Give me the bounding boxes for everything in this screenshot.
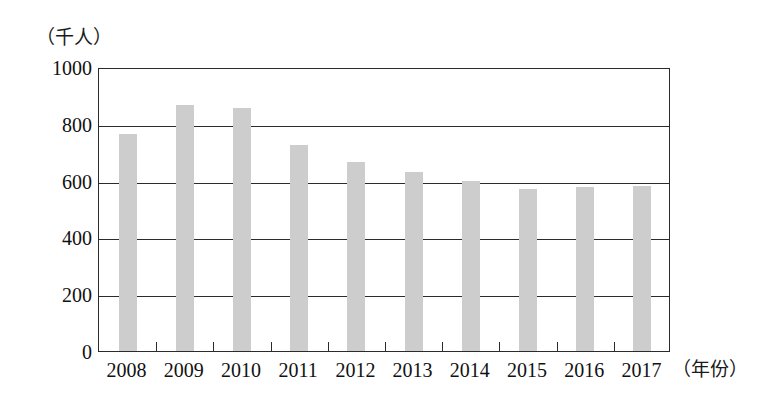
x-tick-label: 2013 bbox=[384, 358, 441, 382]
x-tick-mark bbox=[614, 342, 615, 351]
y-axis-unit-label: （千人） bbox=[36, 22, 112, 49]
bar-2010 bbox=[233, 108, 251, 351]
x-tick-mark bbox=[328, 342, 329, 351]
x-tick-mark bbox=[213, 342, 214, 351]
x-tick-label: 2008 bbox=[98, 358, 155, 382]
x-tick-label: 2016 bbox=[556, 358, 613, 382]
bar-2008 bbox=[119, 134, 137, 351]
x-tick-label: 2014 bbox=[441, 358, 498, 382]
x-tick-mark bbox=[442, 342, 443, 351]
x-tick-mark bbox=[499, 342, 500, 351]
x-tick-label: 2015 bbox=[498, 358, 555, 382]
x-tick-mark bbox=[557, 342, 558, 351]
y-tick-label: 600 bbox=[6, 172, 92, 192]
bar-2015 bbox=[519, 189, 537, 351]
x-tick-mark bbox=[156, 342, 157, 351]
x-tick-mark bbox=[271, 342, 272, 351]
bar-chart: （千人） 02004006008001000 20082009201020112… bbox=[0, 0, 779, 416]
y-tick-label: 1000 bbox=[6, 58, 92, 78]
x-tick-label: 2011 bbox=[270, 358, 327, 382]
x-tick-mark bbox=[385, 342, 386, 351]
bar-2014 bbox=[462, 181, 480, 351]
x-tick-label: 2012 bbox=[327, 358, 384, 382]
bar-2011 bbox=[290, 145, 308, 351]
x-axis-unit-label: （年份） bbox=[672, 358, 748, 382]
x-tick-label: 2009 bbox=[155, 358, 212, 382]
bar-2016 bbox=[576, 187, 594, 351]
y-tick-label: 0 bbox=[6, 342, 92, 362]
x-tick-label: 2010 bbox=[212, 358, 269, 382]
bar-2012 bbox=[347, 162, 365, 351]
x-tick-label: 2017 bbox=[613, 358, 670, 382]
y-tick-label: 800 bbox=[6, 115, 92, 135]
y-tick-label: 400 bbox=[6, 228, 92, 248]
y-tick-label: 200 bbox=[6, 285, 92, 305]
bar-2013 bbox=[405, 172, 423, 351]
plot-area bbox=[98, 68, 670, 352]
y-axis-tick-labels: 02004006008001000 bbox=[0, 68, 92, 352]
bar-2017 bbox=[633, 186, 651, 351]
bar-2009 bbox=[176, 105, 194, 351]
x-axis-tick-labels: 2008200920102011201220132014201520162017 bbox=[98, 358, 670, 388]
bar-series bbox=[99, 69, 669, 351]
